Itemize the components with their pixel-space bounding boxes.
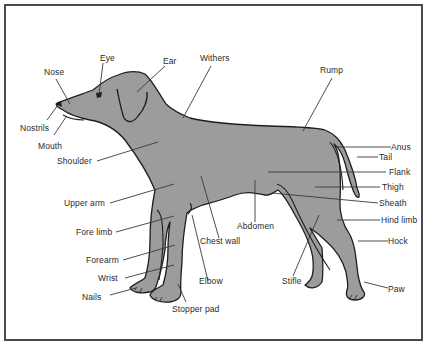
leader-rump [303,78,332,131]
label-eye: Eye [100,53,115,63]
label-hind-limb: Hind limb [381,215,417,225]
label-nose: Nose [44,67,64,77]
label-elbow: Elbow [199,276,223,286]
label-chest-wall: Chest wall [200,236,240,246]
label-nails: Nails [82,292,101,302]
label-stifle: Stifle [282,276,302,286]
label-upper-arm: Upper arm [64,198,105,208]
label-rump: Rump [320,65,343,75]
leader-paw [364,282,388,288]
label-fore-limb: Fore limb [76,227,112,237]
label-withers: Withers [200,53,230,63]
label-nostrils: Nostrils [20,123,49,133]
leader-withers [183,66,211,118]
leader-nails [110,288,136,295]
label-thigh: Thigh [382,182,404,192]
label-paw: Paw [388,284,405,294]
label-abdomen: Abdomen [237,221,274,231]
label-shoulder: Shoulder [57,156,92,166]
leader-nostrils [47,105,58,120]
label-tail: Tail [379,152,392,162]
label-hock: Hock [388,236,408,246]
leader-elbow [192,215,208,281]
label-forearm: Forearm [86,255,119,265]
label-mouth: Mouth [38,141,62,151]
leader-mouth [54,117,66,135]
label-wrist: Wrist [98,273,118,283]
label-flank: Flank [389,167,410,177]
dog-anatomy-illustration [0,0,427,345]
label-stopper-pad: Stopper pad [172,304,219,314]
label-ear: Ear [163,56,177,66]
label-anus: Anus [391,142,411,152]
label-sheath: Sheath [379,198,407,208]
